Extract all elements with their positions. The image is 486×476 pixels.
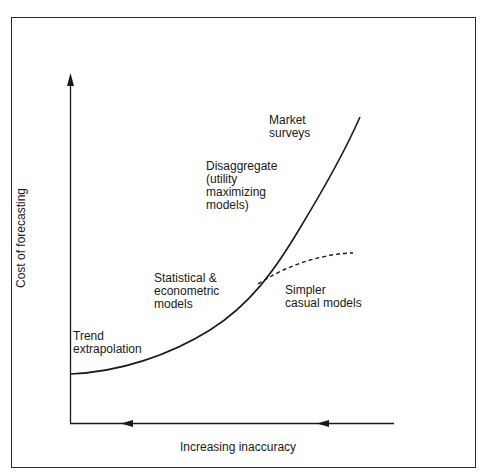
x-axis-label: Increasing inaccuracy [180,440,296,454]
label-trend-extrapolation: Trend extrapolation [73,330,142,356]
x-axis-arrow-right-icon [317,420,329,427]
diagram-canvas [0,0,486,476]
simpler-models-dashed-curve [258,253,353,284]
y-axis-arrow-icon [67,73,74,86]
label-disaggregate-models: Disaggregate (utility maximizing models) [206,160,277,212]
label-statistical-models: Statistical & econometric models [154,272,219,311]
label-market-surveys: Market surveys [269,114,310,140]
y-axis-label: Cost of forecasting [14,188,28,288]
label-simpler-casual-models: Simpler casual models [285,284,362,310]
x-axis-arrow-left-icon [121,420,133,427]
